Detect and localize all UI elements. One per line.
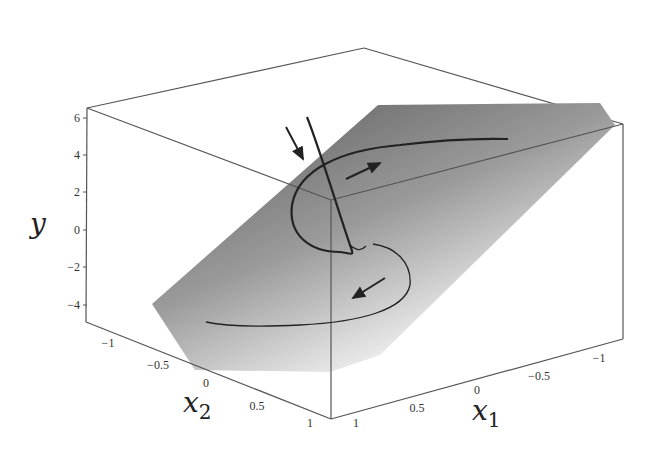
- x2-tick: 0.5: [250, 399, 265, 413]
- y-axis-tick-labels: 6 4 2 0 −2 −4: [67, 111, 80, 312]
- x1-tick: −0.5: [528, 369, 550, 383]
- x2-tick: 0: [203, 376, 209, 390]
- x1-axis-label-base: x: [472, 394, 488, 427]
- y-axis-label: y: [28, 207, 47, 240]
- arrow-approach: [286, 127, 303, 159]
- x2-axis-label: x2: [183, 386, 212, 424]
- x1-tick: 1: [353, 416, 359, 430]
- x1-axis-label: x1: [472, 394, 501, 432]
- y-tick: 6: [74, 111, 80, 125]
- x1-tick: 0.5: [410, 401, 425, 415]
- y-tick: 4: [74, 148, 80, 162]
- y-tick: −4: [67, 298, 80, 312]
- y-tick: −2: [67, 260, 80, 274]
- x1-tick: −1: [593, 351, 606, 365]
- x2-tick: −0.5: [147, 358, 169, 372]
- x2-axis-label-sub: 2: [199, 400, 212, 424]
- x1-axis-label-sub: 1: [488, 408, 501, 432]
- y-tick: 0: [74, 223, 80, 237]
- x2-tick: 1: [307, 416, 313, 430]
- slow-manifold-plane: [152, 103, 615, 372]
- x2-axis-label-base: x: [183, 386, 199, 419]
- 3d-surface-plot: 6 4 2 0 −2 −4 −1 −0.5 0 0.5 1 1 0.5 0 −0…: [0, 0, 653, 457]
- y-tick: 2: [74, 185, 80, 199]
- x2-tick: −1: [102, 336, 115, 350]
